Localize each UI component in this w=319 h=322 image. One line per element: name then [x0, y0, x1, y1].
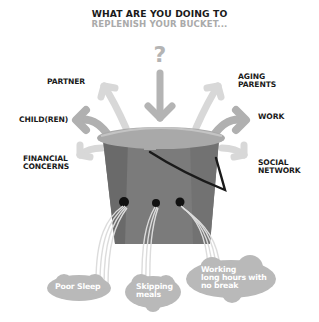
- label-partner: PARTNER: [47, 78, 85, 86]
- arrow-aging-parents-icon: [196, 86, 218, 128]
- label-social-network: SOCIAL NETWORK: [258, 159, 301, 175]
- arrow-partner-icon: [104, 86, 126, 128]
- drain-skipping-meals-text: Skipping meals: [136, 283, 173, 299]
- drain-working-long-hours-text: Working long hours with no break: [201, 266, 267, 290]
- label-work: WORK: [258, 113, 284, 121]
- label-children: CHILD(REN): [19, 116, 68, 124]
- label-financial-concerns: FINANCIAL CONCERNS: [23, 155, 69, 171]
- label-aging-parents: AGING PARENTS: [238, 73, 276, 89]
- drain-poor-sleep-text: Poor Sleep: [55, 283, 100, 291]
- down-arrow-icon: [148, 73, 172, 118]
- question-mark-icon: ?: [154, 42, 167, 67]
